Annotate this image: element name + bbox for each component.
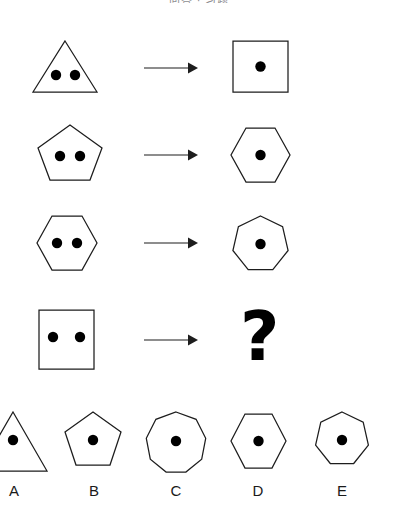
dot — [255, 61, 265, 71]
row-2-right-shape-hexagon — [231, 128, 290, 182]
row-4 — [39, 310, 198, 369]
dot — [72, 238, 82, 248]
dot — [255, 150, 265, 160]
dot — [75, 332, 85, 342]
dot — [75, 151, 85, 161]
answer-placeholder-question-mark: ? — [240, 303, 279, 371]
row-3 — [37, 216, 288, 270]
dot — [337, 435, 347, 445]
row-4-left-shape-square — [39, 310, 94, 369]
option-c-shape-nonagon[interactable] — [146, 412, 205, 472]
option-label-b: B — [82, 482, 106, 499]
dot — [70, 70, 80, 80]
row-1-left-shape-triangle — [33, 41, 97, 92]
row-2-arrow-icon — [144, 150, 198, 161]
row-1-right-shape-square — [233, 41, 288, 92]
dot — [255, 239, 265, 249]
row-4-arrow-icon — [144, 335, 198, 346]
options-row — [0, 412, 368, 472]
dot — [52, 238, 62, 248]
dot — [171, 436, 181, 446]
row-3-right-shape-heptagon — [233, 216, 288, 270]
option-label-a: A — [2, 482, 26, 499]
row-3-arrow-icon — [144, 238, 198, 249]
puzzle-figures — [0, 0, 398, 518]
option-d-shape-hexagon[interactable] — [231, 414, 286, 468]
option-e-shape-heptagon[interactable] — [316, 412, 369, 464]
row-2-left-shape-pentagon — [38, 125, 102, 180]
dot — [8, 435, 18, 445]
option-label-c: C — [164, 482, 188, 499]
puzzle-canvas: 问答 · 习题 — [0, 0, 398, 518]
dot — [88, 435, 98, 445]
option-label-e: E — [330, 482, 354, 499]
option-b-shape-pentagon[interactable] — [65, 412, 121, 465]
dot — [48, 332, 58, 342]
row-3-left-shape-hexagon — [37, 216, 97, 270]
option-a-shape-triangle[interactable] — [0, 412, 47, 471]
dot — [55, 151, 65, 161]
row-1 — [33, 41, 288, 92]
row-1-arrow-icon — [144, 63, 198, 74]
row-2 — [38, 125, 290, 182]
dot — [253, 436, 263, 446]
dot — [51, 70, 61, 80]
option-label-d: D — [246, 482, 270, 499]
